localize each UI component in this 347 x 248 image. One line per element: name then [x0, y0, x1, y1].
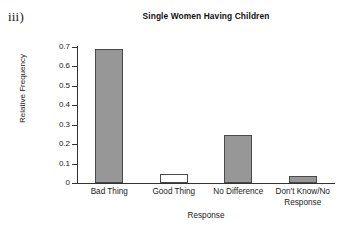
- x-axis-tick-label-line: Response: [271, 198, 336, 209]
- plot-area: [77, 47, 335, 183]
- x-axis-tick-label-line: Don't Know/No: [271, 187, 336, 198]
- y-axis-tick-label: 0.1: [24, 160, 70, 168]
- x-axis-title: Response: [77, 211, 335, 221]
- x-axis-tick-label-line: No Difference: [206, 187, 271, 198]
- x-axis-tick-label: Bad Thing: [77, 187, 142, 198]
- bar: [160, 174, 188, 183]
- y-axis-tick-label: 0.5: [24, 82, 70, 90]
- y-axis-tick-label: 0.3: [24, 121, 70, 129]
- x-axis-tick-label: Don't Know/NoResponse: [271, 187, 336, 208]
- y-axis-tick-label: 0.2: [24, 140, 70, 148]
- y-axis-tick-labels: 00.10.20.30.40.50.60.7: [20, 0, 70, 248]
- bar: [95, 49, 123, 183]
- x-axis-tick-label-line: Bad Thing: [77, 187, 142, 198]
- y-axis-tick-mark: [72, 183, 77, 184]
- x-axis-tick-label-line: Good Thing: [142, 187, 207, 198]
- bar: [224, 135, 252, 183]
- bar: [289, 176, 317, 183]
- y-axis-tick-label: 0.4: [24, 101, 70, 109]
- x-axis-line: [77, 183, 335, 184]
- x-axis-tick-label: Good Thing: [142, 187, 207, 198]
- bar-chart-figure: iii) Single Women Having Children 00.10.…: [0, 0, 347, 248]
- y-axis-title: Relative Frequency: [18, 34, 27, 144]
- x-axis-tick-label: No Difference: [206, 187, 271, 198]
- y-axis-tick-label: 0.7: [24, 43, 70, 51]
- chart-title: Single Women Having Children: [77, 11, 335, 21]
- y-axis-tick-label: 0: [24, 179, 70, 187]
- y-axis-tick-label: 0.6: [24, 62, 70, 70]
